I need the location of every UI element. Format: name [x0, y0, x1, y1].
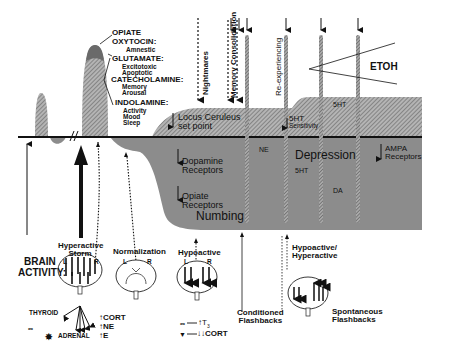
arrow-up-icon	[285, 234, 289, 239]
conditioned-flashbacks-label: Conditioned Flashbacks	[237, 309, 284, 326]
flashback-line: Flashbacks	[237, 317, 284, 325]
left-hemisphere-label: L	[123, 259, 127, 266]
t3-label: ↑T3	[198, 319, 210, 329]
5ht-up-label: 5HT	[333, 101, 346, 108]
arrow-up-icon	[194, 238, 198, 243]
state-name: Hyperactive	[292, 252, 337, 260]
sensitivity-line: Sensitivity	[289, 123, 318, 130]
brain-activity-label: BRAIN ACTIVITY:	[18, 257, 66, 278]
thyroid-icon: ∞	[28, 325, 33, 332]
hyperactive-storm-label: Hyperactive Storm	[58, 242, 102, 259]
hormone-arrows	[64, 306, 90, 330]
left-hemisphere-label: L	[184, 259, 188, 266]
column-3	[319, 35, 323, 223]
e-text: E	[103, 331, 108, 340]
small-dip	[50, 137, 66, 144]
hypo-hyperactive-label: Hypoactive/ Hyperactive	[292, 244, 337, 261]
left-hemisphere-label: L	[63, 259, 67, 266]
5ht-sensitivity-label: 5HT Sensitivity	[289, 115, 318, 130]
right-hemisphere-label: R	[94, 259, 99, 266]
bracket-line	[100, 35, 112, 44]
receptors-line: Receptors	[182, 166, 223, 175]
etoh-label: ETOH	[370, 62, 398, 73]
brain-mixed-icon	[288, 277, 328, 316]
receptors-line: Receptors	[385, 153, 421, 161]
ne-text: NE	[103, 322, 114, 331]
peak-small	[35, 93, 48, 137]
da-label: DA	[333, 187, 343, 194]
hypoactive-label: Hypoactive	[178, 249, 221, 257]
reexperiencing-label: Re-experiencing	[274, 38, 283, 96]
locus-ceruleus-label: Locus Ceruleus set point	[178, 113, 241, 132]
dopamine-label: Dopamine Receptors	[182, 157, 223, 176]
bold-arrow-up-icon	[74, 145, 88, 238]
brain-normalization-icon	[116, 260, 156, 299]
right-hemisphere-label: R	[147, 259, 152, 266]
ne-label: NE	[259, 146, 269, 153]
memory-consolidation-label: Memory Consolidation	[229, 12, 238, 98]
cort-low-label: ↓↓CORT	[197, 330, 228, 338]
adrenal-small-icon: ▼	[179, 331, 186, 338]
5ht-down-label: 5HT	[295, 167, 308, 174]
oxytocin-effect: Amnestic	[126, 47, 155, 54]
cort-text: CORT	[103, 313, 126, 322]
e-hormone-label: ↑E	[99, 332, 108, 340]
adrenal-icon: ✸	[44, 332, 53, 342]
normalization-label: Normalization	[113, 248, 166, 256]
spontaneous-flashbacks-label: Spontaneous Flashbacks	[332, 308, 383, 325]
brain-hypoactive-icon	[177, 261, 217, 300]
activity-line: ACTIVITY:	[18, 268, 66, 279]
t3-subscript: 3	[207, 323, 210, 329]
ampa-label: AMPA Receptors	[385, 145, 421, 162]
ptsd-neurobiology-diagram: ∞ ▼ ∞ ✸ OPIATE OXYTOCIN: Amnestic GLUTAM…	[0, 0, 449, 356]
thyroid-small-icon: ∞	[180, 320, 185, 327]
right-hemisphere-label: R	[207, 259, 212, 266]
indolamine-effect: Sleep	[123, 120, 140, 127]
arrow-up-icon	[240, 232, 244, 237]
column-4	[356, 35, 360, 223]
column-2	[284, 35, 288, 223]
arrow-up-icon	[124, 152, 128, 157]
peak-large	[82, 45, 108, 137]
cort-low-text: CORT	[205, 329, 228, 338]
locus-ceruleus-line: set point	[178, 122, 241, 131]
nightmares-label: Nightmares	[201, 51, 210, 95]
depression-label: Depression	[295, 149, 356, 162]
numbing-label: Numbing	[196, 210, 244, 223]
column-1	[245, 35, 249, 223]
arrow-up-icon	[96, 142, 100, 147]
diagram-canvas: ∞ ▼ ∞ ✸	[0, 0, 449, 356]
flashback-line: Flashbacks	[332, 316, 383, 324]
catecholamine-effect: Arousal	[122, 90, 146, 97]
adrenal-label: ADRENAL	[58, 333, 90, 340]
thyroid-label: THYROID	[29, 310, 58, 317]
